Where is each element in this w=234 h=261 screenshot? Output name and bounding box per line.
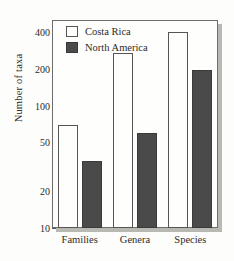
bar-families-north-america — [82, 161, 102, 228]
legend-item-costa-rica: Costa Rica — [66, 24, 176, 39]
chart-figure: Number of taxa 400200100502010 Costa Ric… — [0, 0, 234, 261]
y-axis-tick-labels: 400200100502010 — [20, 20, 50, 228]
x-tick-label-genera: Genera — [120, 234, 150, 245]
legend-swatch-icon-north-america — [66, 42, 78, 53]
bar-genera-costa-rica — [113, 53, 133, 228]
y-tick-label: 200 — [24, 63, 50, 74]
legend-item-north-america: North America — [66, 40, 176, 55]
legend-swatch-icon-costa-rica — [66, 26, 78, 37]
y-tick-label: 100 — [24, 100, 50, 111]
legend-label-costa-rica: Costa Rica — [85, 26, 131, 37]
y-tick-label: 400 — [24, 26, 50, 37]
bar-species-north-america — [192, 70, 212, 228]
bar-genera-north-america — [137, 133, 157, 228]
x-tick-label-species: Species — [174, 234, 206, 245]
x-tick-label-families: Families — [62, 234, 98, 245]
bar-families-costa-rica — [58, 125, 78, 228]
y-tick-label: 20 — [24, 186, 50, 197]
legend-label-north-america: North America — [85, 42, 148, 53]
chart-legend: Costa Rica North America — [66, 24, 176, 56]
y-tick-label: 50 — [24, 137, 50, 148]
bar-species-costa-rica — [168, 32, 188, 228]
x-axis-tick-labels: FamiliesGeneraSpecies — [52, 234, 218, 252]
y-tick-label: 10 — [24, 223, 50, 234]
